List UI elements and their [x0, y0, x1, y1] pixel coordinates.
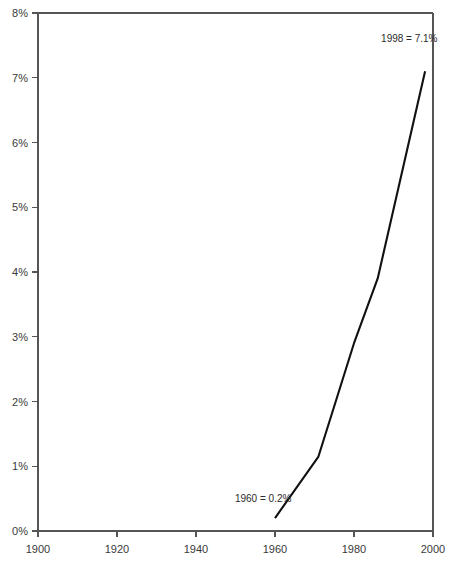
x-tick-label-1920: 1920 [105, 543, 129, 555]
y-tick-label-0: 0% [12, 525, 28, 537]
x-tick-label-1960: 1960 [263, 543, 287, 555]
y-tick-label-6: 6% [12, 137, 28, 149]
x-tick-label-1980: 1980 [342, 543, 366, 555]
x-tick-label-2000: 2000 [421, 543, 445, 555]
y-tick-label-1: 1% [12, 460, 28, 472]
x-tick-label-1900: 1900 [26, 543, 50, 555]
annotation-end-point: 1998 = 7.1% [381, 33, 438, 44]
y-tick-label-8: 8% [12, 7, 28, 19]
line-chart: 0% 1% 2% 3% 4% 5% 6% 7% 8% 1900 1920 194… [0, 0, 453, 569]
annotation-start-point: 1960 = 0.2% [235, 493, 292, 504]
chart-container: 0% 1% 2% 3% 4% 5% 6% 7% 8% 1900 1920 194… [0, 0, 453, 569]
y-tick-label-7: 7% [12, 72, 28, 84]
y-tick-label-5: 5% [12, 201, 28, 213]
chart-background [0, 0, 453, 569]
y-tick-label-4: 4% [12, 266, 28, 278]
x-tick-label-1940: 1940 [184, 543, 208, 555]
y-tick-label-2: 2% [12, 396, 28, 408]
y-tick-label-3: 3% [12, 331, 28, 343]
